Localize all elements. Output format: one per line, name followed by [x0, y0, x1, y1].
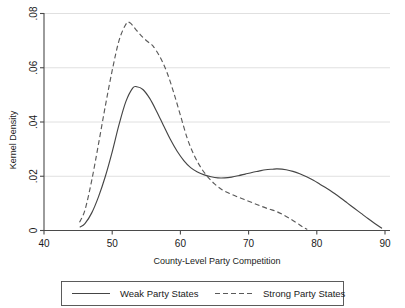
y-tick-label: .06 — [28, 60, 39, 74]
x-tick-label: 50 — [107, 238, 119, 249]
y-tick-label: .08 — [28, 6, 39, 20]
x-tick-label: 80 — [311, 238, 323, 249]
chart-canvas: 0.02.04.06.08 405060708090 Kernel Densit… — [0, 0, 405, 308]
legend-label-strong-party-states: Strong Party States — [263, 288, 346, 299]
y-axis-title: Kernel Density — [8, 110, 18, 169]
x-tick-label: 70 — [243, 238, 255, 249]
y-tick-label: .02 — [28, 169, 39, 183]
legend: Weak Party States Strong Party States — [62, 282, 346, 306]
series-line-weak-party-states — [80, 86, 381, 228]
x-tick-label: 60 — [175, 238, 187, 249]
x-axis-title: County-Level Party Competition — [153, 256, 280, 266]
y-tick-label: 0 — [28, 227, 39, 233]
x-tick-label: 90 — [379, 238, 391, 249]
series-line-strong-party-states — [79, 22, 307, 229]
gridlines — [44, 14, 390, 231]
x-axis-ticks: 405060708090 — [38, 231, 391, 249]
legend-label-weak-party-states: Weak Party States — [120, 288, 199, 299]
y-tick-label: .04 — [28, 115, 39, 129]
x-tick-label: 40 — [38, 238, 50, 249]
kernel-density-figure: 0.02.04.06.08 405060708090 Kernel Densit… — [0, 0, 405, 308]
y-axis-ticks: 0.02.04.06.08 — [28, 6, 45, 233]
